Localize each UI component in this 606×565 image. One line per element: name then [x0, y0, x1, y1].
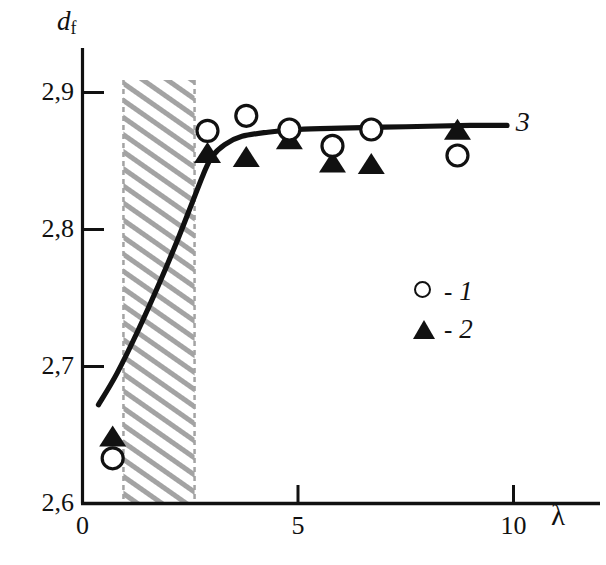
- y-axis-title-subscript: f: [71, 18, 77, 38]
- data-point-open-circle: [447, 145, 468, 166]
- hatched-region: [123, 80, 194, 503]
- y-axis-title-base: d: [57, 6, 71, 36]
- x-axis-ticks: [298, 485, 514, 504]
- x-axis-title: λ: [551, 499, 565, 532]
- y-axis-title: df: [57, 6, 76, 39]
- chart-figure: df λ 2,62,72,82,90510 3 - 1 - 2: [0, 0, 606, 565]
- x-tick-label: 0: [61, 511, 105, 541]
- curve-label-3: 3: [516, 106, 530, 138]
- legend-separator-2: -: [444, 317, 452, 342]
- x-tick-label: 10: [492, 511, 536, 541]
- legend-label-2: 2: [459, 316, 473, 343]
- data-point-open-circle: [361, 119, 382, 140]
- chart-legend: - 1 - 2: [412, 272, 473, 348]
- y-tick-label: 2,9: [8, 77, 74, 107]
- y-axis-ticks: [83, 93, 105, 367]
- data-point-filled-triangle: [444, 119, 471, 140]
- legend-separator-1: -: [444, 279, 452, 304]
- data-point-filled-triangle: [358, 153, 385, 174]
- data-point-open-circle: [279, 119, 300, 140]
- legend-item-1: - 1: [412, 272, 473, 310]
- data-point-open-circle: [102, 448, 123, 469]
- legend-label-1: 1: [459, 278, 473, 305]
- legend-item-2: - 2: [412, 310, 473, 348]
- open-circle-icon: [412, 276, 442, 306]
- data-point-open-circle: [322, 135, 343, 156]
- data-point-filled-triangle: [99, 426, 126, 447]
- filled-triangle-icon: [412, 314, 442, 344]
- data-point-open-circle: [236, 105, 257, 126]
- y-tick-label: 2,8: [8, 214, 74, 244]
- x-tick-label: 5: [276, 511, 320, 541]
- plot-canvas: [0, 0, 606, 565]
- data-point-filled-triangle: [233, 146, 260, 167]
- data-point-open-circle: [197, 120, 218, 141]
- y-tick-label: 2,7: [8, 351, 74, 381]
